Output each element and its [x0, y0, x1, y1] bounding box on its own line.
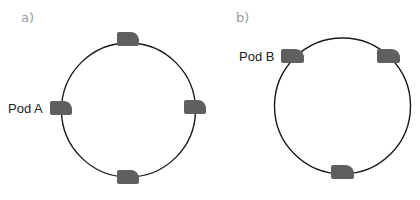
ring-a: [62, 43, 196, 177]
diagram: a) Pod A b) Pod B: [0, 0, 420, 200]
panel-b-label: b): [236, 10, 249, 25]
pod-b-label: Pod B: [239, 49, 274, 64]
panel-a: a) Pod A: [8, 10, 206, 184]
panel-a-label: a): [21, 10, 34, 25]
pod-a-right: [184, 100, 206, 114]
panel-b: b) Pod B: [236, 10, 411, 179]
pod-a-label: Pod A: [8, 101, 43, 116]
pod-b-top-right: [377, 49, 400, 63]
pod-a-bottom: [117, 170, 139, 184]
pod-b-bottom: [331, 165, 354, 179]
pod-a-top: [117, 32, 139, 46]
pod-b-top-left: [281, 49, 304, 63]
pod-a-left: [50, 101, 72, 115]
